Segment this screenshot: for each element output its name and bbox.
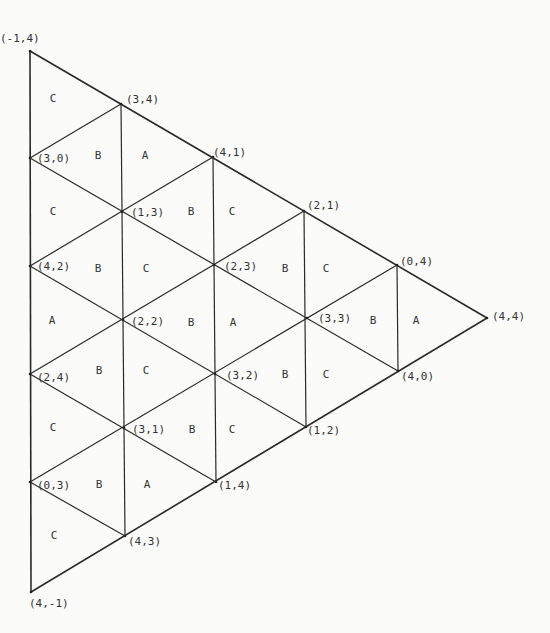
region-label: B: [96, 364, 103, 377]
vertex-label: (4,0): [401, 370, 434, 383]
region-label: B: [189, 423, 196, 436]
vertex-dot: [123, 427, 126, 430]
triangle-grid-diagram: (-1,4)(3,0)(4,2)(2,4)(0,3)(4,-1)(3,4)(1,…: [0, 0, 550, 633]
region-label: B: [96, 478, 103, 491]
vertex-dot: [121, 211, 124, 214]
vertex-label: (0,3): [37, 479, 70, 492]
region-label: B: [95, 262, 102, 275]
region-label: C: [143, 262, 150, 275]
outer-edge: [31, 318, 487, 592]
region-label: C: [323, 368, 330, 381]
region-label: B: [188, 205, 195, 218]
vertex-label: (0,4): [400, 255, 433, 268]
region-label: B: [282, 262, 289, 275]
grid-edge: [30, 266, 306, 427]
vertex-dot: [29, 481, 32, 484]
region-label: C: [143, 364, 150, 377]
region-label: C: [323, 262, 330, 275]
vertex-label: (4,1): [213, 146, 246, 159]
vertex-label: (1,3): [131, 206, 164, 219]
vertex-label: (4,2): [37, 260, 70, 273]
vertex-dot: [29, 157, 32, 160]
vertex-label: (3,4): [126, 93, 159, 106]
vertex-label: (2,4): [37, 371, 70, 384]
vertex-labels: (-1,4)(3,0)(4,2)(2,4)(0,3)(4,-1)(3,4)(1,…: [0, 32, 525, 610]
region-label: A: [144, 478, 151, 491]
vertex-dot: [215, 481, 218, 484]
vertex-dot: [213, 264, 216, 267]
vertex-label: (2,2): [131, 315, 164, 328]
region-label: B: [188, 316, 195, 329]
vertex-label: (4,-1): [29, 597, 69, 610]
region-label: C: [50, 421, 57, 434]
region-label: C: [229, 205, 236, 218]
region-labels: CBACBCBCBCABABABCBCCBCBAC: [49, 92, 420, 542]
grid-edge: [213, 157, 216, 482]
vertex-label: (3,0): [37, 152, 70, 165]
region-label: A: [142, 149, 149, 162]
grid-edge: [397, 265, 398, 371]
vertex-dot: [214, 373, 217, 376]
region-label: B: [282, 368, 289, 381]
vertex-label: (2,1): [307, 199, 340, 212]
grid-edge: [30, 104, 121, 158]
vertex-dot: [306, 317, 309, 320]
vertex-dot: [29, 373, 32, 376]
vertex-label: (3,3): [318, 312, 351, 325]
outer-edge: [30, 51, 487, 318]
vertex-dot: [122, 319, 125, 322]
vertex-label: (2,3): [224, 260, 257, 273]
vertex-dot: [396, 264, 399, 267]
vertex-label: (3,1): [132, 423, 165, 436]
vertex-label: (1,2): [307, 424, 340, 437]
region-label: A: [230, 316, 237, 329]
region-label: C: [50, 92, 57, 105]
region-label: A: [413, 314, 420, 327]
vertex-dot: [120, 103, 123, 106]
vertex-dot: [30, 591, 33, 594]
region-label: C: [51, 529, 58, 542]
vertex-dot: [397, 370, 400, 373]
vertex-dot: [29, 50, 32, 53]
vertex-dot: [303, 210, 306, 213]
vertex-label: (1,4): [218, 479, 251, 492]
vertex-dot: [29, 265, 32, 268]
vertex-label: (-1,4): [0, 32, 40, 45]
vertex-label: (4,3): [128, 535, 161, 548]
region-label: C: [229, 423, 236, 436]
vertex-label: (4,4): [492, 310, 525, 323]
vertex-dot: [124, 535, 127, 538]
region-label: C: [50, 205, 57, 218]
vertex-label: (3,2): [226, 369, 259, 382]
region-label: A: [49, 314, 56, 327]
vertex-dot: [486, 317, 489, 320]
outer-edge: [30, 51, 31, 592]
region-label: B: [95, 149, 102, 162]
region-label: B: [370, 314, 377, 327]
